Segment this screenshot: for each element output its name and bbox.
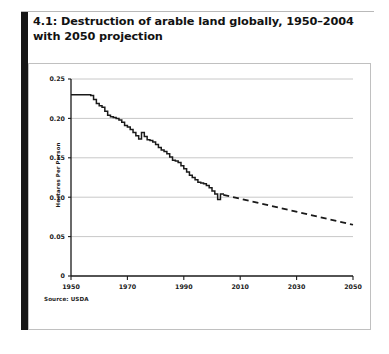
x-tick-labels: 195019701990201020302050	[62, 283, 362, 290]
chart-panel: Hectares Per Person 00.050.100.150.200.2…	[28, 63, 371, 330]
svg-text:0.20: 0.20	[49, 115, 65, 122]
svg-text:0: 0	[61, 272, 66, 279]
series-historical-line	[71, 95, 223, 200]
svg-text:0.25: 0.25	[49, 75, 65, 82]
svg-text:2030: 2030	[288, 283, 306, 290]
svg-text:0.05: 0.05	[49, 233, 65, 240]
figure-container: 4.1: Destruction of arable land globally…	[0, 0, 389, 354]
caption-top-rule	[21, 11, 374, 12]
gridlines	[68, 79, 353, 276]
source-note: Source: USDA	[44, 296, 89, 302]
series-projection-line	[223, 195, 353, 225]
svg-text:1950: 1950	[62, 283, 80, 290]
line-chart: 00.050.100.150.200.25 195019701990201020…	[29, 64, 372, 331]
svg-text:2010: 2010	[231, 283, 249, 290]
svg-text:0.10: 0.10	[49, 194, 65, 201]
figure-caption: 4.1: Destruction of arable land globally…	[33, 14, 371, 44]
svg-text:2050: 2050	[344, 283, 362, 290]
svg-text:1990: 1990	[175, 283, 193, 290]
svg-text:1970: 1970	[119, 283, 137, 290]
y-tick-labels: 00.050.100.150.200.25	[49, 75, 65, 279]
figure-accent-bar	[21, 12, 28, 330]
svg-text:0.15: 0.15	[49, 154, 65, 161]
